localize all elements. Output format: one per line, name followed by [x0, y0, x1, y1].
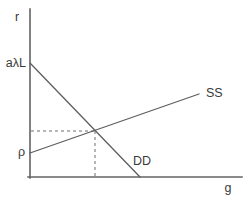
dd-label: DD: [133, 154, 151, 168]
diagram-canvas: r g aλL ρ DD SS: [0, 0, 246, 204]
x-axis-label: g: [225, 181, 232, 195]
y-axis-label: r: [15, 10, 19, 24]
dd-intercept-label: aλL: [6, 56, 26, 70]
economics-diagram: r g aλL ρ DD SS: [0, 0, 246, 204]
ss-intercept-label: ρ: [18, 145, 25, 159]
ss-curve: [30, 94, 199, 153]
ss-label: SS: [206, 86, 223, 100]
